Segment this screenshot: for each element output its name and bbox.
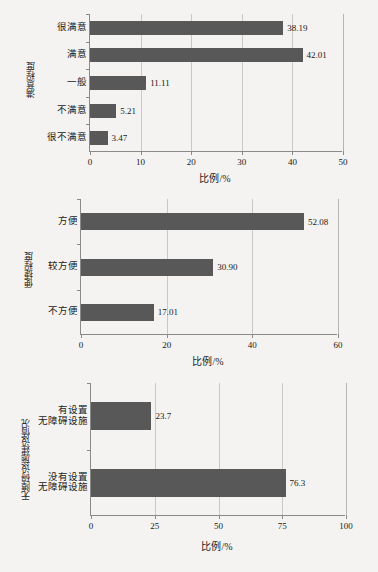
x-axis-tick: [155, 515, 156, 519]
y-axis-tick: [77, 199, 81, 200]
x-axis-tick: [346, 515, 347, 519]
gridline: [338, 199, 339, 334]
y-axis-tick: [87, 383, 91, 384]
bar: [90, 104, 116, 118]
category-label: 满意: [67, 50, 90, 60]
y-axis-tick: [86, 42, 90, 43]
chart3-plot-area: 025507510076.3没有设置无障碍设施23.7有设置无障碍设施: [90, 383, 345, 516]
category-label: 较方便: [48, 262, 81, 272]
x-axis-tick: [343, 151, 344, 155]
x-axis-tick: [191, 151, 192, 155]
bar-value-label: 76.3: [290, 478, 306, 488]
gridline: [343, 14, 344, 151]
bar: [90, 131, 108, 145]
category-label: 没有设置无障碍设施: [38, 472, 91, 493]
y-axis-tick: [86, 124, 90, 125]
x-axis-tick: [242, 151, 243, 155]
x-axis-tick: [167, 334, 168, 338]
x-axis-tick-label: 0: [89, 521, 94, 531]
bar: [90, 76, 146, 90]
x-axis-tick-label: 75: [278, 521, 287, 531]
chart-satisfaction: 满意程度 010203040503.47很不满意5.21不满意11.11一般42…: [0, 0, 378, 185]
category-label: 方便: [58, 217, 81, 227]
x-axis-tick-label: 0: [88, 157, 93, 167]
x-axis-tick: [90, 151, 91, 155]
chart2-plot-area: 020406017.01不方便30.90较方便52.08方便: [80, 199, 337, 335]
bar-value-label: 17.01: [158, 307, 178, 317]
chart1-y-axis-title: 满意程度: [26, 40, 35, 120]
bar-value-label: 11.11: [150, 78, 170, 88]
x-axis-tick-label: 25: [150, 521, 159, 531]
x-axis-tick-label: 50: [214, 521, 223, 531]
x-axis-tick: [338, 334, 339, 338]
gridline: [292, 14, 293, 151]
x-axis-tick-label: 60: [334, 340, 343, 350]
chart2-x-axis-title: 比例/%: [192, 353, 223, 368]
category-label: 有设置无障碍设施: [38, 406, 91, 427]
y-axis-tick: [86, 14, 90, 15]
chart-convenience: 便捷程度 020406017.01不方便30.90较方便52.08方便 比例/%: [0, 185, 378, 370]
bar-value-label: 30.90: [217, 262, 237, 272]
bar: [90, 48, 303, 62]
x-axis-tick-label: 20: [162, 340, 171, 350]
bar-value-label: 42.01: [307, 50, 327, 60]
x-axis-tick-label: 10: [136, 157, 145, 167]
category-label: 不满意: [57, 106, 90, 116]
x-axis-tick-label: 40: [248, 340, 257, 350]
chart2-y-axis-title: 便捷程度: [24, 235, 33, 305]
x-axis-tick: [282, 515, 283, 519]
bar-value-label: 38.19: [287, 23, 307, 33]
x-axis-tick-label: 40: [288, 157, 297, 167]
x-axis-tick: [81, 334, 82, 338]
x-axis-tick-label: 0: [79, 340, 84, 350]
bar-value-label: 23.7: [155, 411, 171, 421]
bar: [91, 469, 286, 497]
category-label: 很不满意: [47, 133, 90, 143]
y-axis-tick: [86, 97, 90, 98]
x-axis-tick-label: 100: [339, 521, 353, 531]
y-axis-tick: [77, 290, 81, 291]
x-axis-tick-label: 20: [187, 157, 196, 167]
category-label: 很满意: [57, 23, 90, 33]
bar: [81, 259, 213, 276]
y-axis-tick: [86, 69, 90, 70]
x-axis-tick: [252, 334, 253, 338]
bar: [81, 213, 304, 230]
x-axis-tick: [91, 515, 92, 519]
x-axis-tick-label: 50: [339, 157, 348, 167]
gridline: [346, 383, 347, 515]
x-axis-tick: [141, 151, 142, 155]
chart3-y-axis-title: 无障碍设施建设情况: [21, 395, 30, 525]
x-axis-tick: [292, 151, 293, 155]
bar: [90, 21, 283, 35]
x-axis-tick: [219, 515, 220, 519]
chart-accessibility: 无障碍设施建设情况 025507510076.3没有设置无障碍设施23.7有设置…: [0, 370, 378, 572]
y-axis-tick: [87, 450, 91, 451]
bar: [81, 304, 154, 321]
category-label: 不方便: [48, 307, 81, 317]
bar-value-label: 3.47: [112, 133, 128, 143]
x-axis-tick-label: 30: [237, 157, 246, 167]
category-label: 一般: [67, 78, 90, 88]
chart1-x-axis-title: 比例/%: [199, 170, 230, 185]
bar-value-label: 5.21: [120, 106, 136, 116]
chart1-plot-area: 010203040503.47很不满意5.21不满意11.11一般42.01满意…: [89, 14, 342, 152]
bar-value-label: 52.08: [308, 217, 328, 227]
chart3-x-axis-title: 比例/%: [201, 538, 232, 553]
bar: [91, 402, 151, 430]
y-axis-tick: [77, 244, 81, 245]
